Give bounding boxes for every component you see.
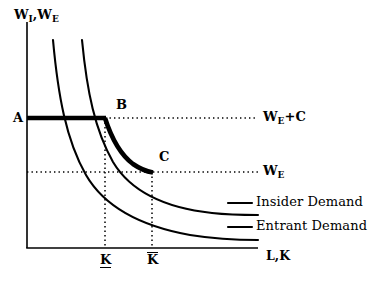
wage-plus-cost-label-w: W (263, 109, 278, 124)
k-lower-bar-glyph: K (100, 253, 111, 268)
wage-plus-cost-label: WE+C (263, 110, 306, 123)
insider-demand-label: Insider Demand (256, 195, 363, 208)
k-upper-bar-glyph: K (147, 252, 158, 267)
y-axis-title-sub-entrant: E (52, 14, 59, 24)
diagram-canvas (0, 0, 369, 285)
bold-segment-b-to-c (105, 118, 153, 173)
y-axis-title: WI,WE (14, 8, 59, 21)
x-axis-title: L,K (266, 250, 290, 263)
point-label-c: C (159, 150, 170, 163)
y-axis-title-sep: ,W (33, 7, 52, 22)
wage-entrant-label-w: W (263, 163, 278, 178)
wage-entrant-label-sub: E (278, 170, 285, 180)
entrant-demand-label: Entrant Demand (256, 219, 367, 232)
point-label-a: A (13, 111, 23, 124)
y-axis-title-text: W (14, 7, 29, 22)
wage-plus-cost-label-suffix: +C (284, 109, 305, 124)
wage-entrant-label: WE (263, 164, 284, 177)
y-axis-title-sub-insider: I (29, 14, 33, 24)
entrant-demand-curve (53, 40, 258, 240)
k-lower-bar-tick-label: K (100, 253, 111, 268)
point-label-b: B (116, 98, 127, 111)
k-upper-bar-tick-label: K (147, 252, 158, 267)
wage-plus-cost-label-sub: E (278, 116, 285, 126)
insider-outsider-wage-employment-diagram: WI,WE L,K A B C WE+C WE K K Insider Dema… (0, 0, 369, 285)
